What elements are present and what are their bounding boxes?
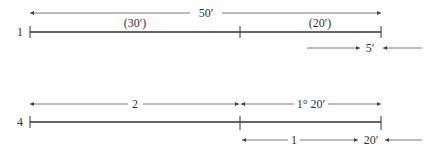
segment-label: 1° 20′: [297, 97, 326, 111]
offset-label-2: 20′: [364, 133, 379, 147]
segment-label-1: (30′): [124, 16, 147, 30]
dimension-diagram: 50′ (30′) (20′) 1 5′ 2 1° 20′ 4 1: [0, 0, 444, 149]
row-label: 4: [17, 115, 23, 129]
row-1: 50′ (30′) (20′) 1 5′: [17, 6, 422, 55]
total-length-label: 2: [132, 97, 138, 111]
offset-label: 5′: [366, 41, 375, 55]
offset-label-1: 1: [291, 133, 297, 147]
row-label: 1: [17, 25, 23, 39]
segment-label-2: (20′): [309, 16, 332, 30]
total-length-label: 50′: [199, 6, 214, 20]
row-2: 2 1° 20′ 4 1 20′: [17, 97, 422, 147]
